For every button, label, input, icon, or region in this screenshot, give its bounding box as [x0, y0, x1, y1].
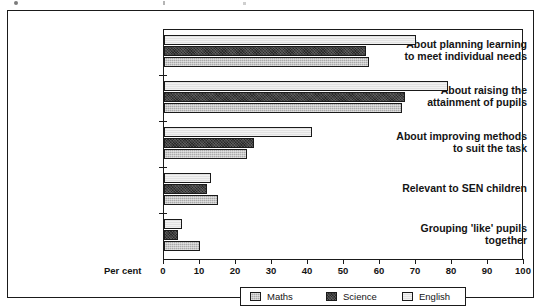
scan-artifact [243, 2, 246, 5]
y-axis-separator-tick [159, 167, 167, 168]
x-axis-tick [379, 259, 380, 264]
bar-science [164, 184, 207, 194]
bar-maths [164, 195, 218, 205]
bar-science [164, 92, 405, 102]
x-axis-tick-label: 80 [438, 265, 464, 276]
x-axis-tick [163, 259, 164, 264]
x-axis-tick [235, 259, 236, 264]
x-axis-tick [451, 259, 452, 264]
bar-maths [164, 103, 402, 113]
x-axis-tick [199, 259, 200, 264]
bar-maths [164, 149, 247, 159]
legend-item-science[interactable]: Science [326, 288, 402, 305]
x-axis-tick-label: 50 [330, 265, 356, 276]
bar-maths [164, 57, 369, 67]
x-axis-tick-label: 10 [186, 265, 212, 276]
chart-figure: About planning learningto meet individua… [7, 10, 534, 298]
bar-science [164, 138, 254, 148]
x-axis-tick [523, 259, 524, 264]
x-axis-tick [307, 259, 308, 264]
bar-english [164, 173, 211, 183]
legend-item-maths[interactable]: Maths [250, 288, 326, 305]
scan-artifact [14, 1, 18, 5]
x-axis-tick [487, 259, 488, 264]
scan-artifact [163, 1, 165, 5]
bar-english [164, 127, 312, 137]
bar-science [164, 230, 178, 240]
x-axis-tick-label: 100 [510, 265, 536, 276]
x-axis-tick-label: 70 [402, 265, 428, 276]
bar-english [164, 219, 182, 229]
x-axis-tick-label: 30 [258, 265, 284, 276]
x-axis-tick [343, 259, 344, 264]
bar-science [164, 46, 366, 56]
x-axis-tick-label: 90 [474, 265, 500, 276]
x-axis-tick [271, 259, 272, 264]
plot-area: 0102030405060708090100 [163, 29, 523, 259]
bar-english [164, 81, 448, 91]
x-axis-title: Per cent [104, 265, 142, 276]
bar-group [164, 29, 523, 75]
bar-group [164, 213, 523, 259]
legend-swatch-maths [250, 292, 261, 301]
x-axis-tick-label: 0 [150, 265, 176, 276]
y-axis-separator-tick [159, 121, 167, 122]
bar-english [164, 35, 416, 45]
legend-swatch-science [326, 292, 337, 301]
bar-maths [164, 241, 200, 251]
x-axis-tick [415, 259, 416, 264]
x-axis-tick-label: 60 [366, 265, 392, 276]
bar-group [164, 121, 523, 167]
chart-legend: MathsScienceEnglish [240, 287, 466, 306]
x-axis-tick-label: 20 [222, 265, 248, 276]
bar-group [164, 75, 523, 121]
legend-swatch-english [402, 292, 413, 301]
x-axis-tick-label: 40 [294, 265, 320, 276]
y-axis-separator-tick [159, 213, 167, 214]
bar-group [164, 167, 523, 213]
y-axis-separator-tick [159, 75, 167, 76]
legend-label: Maths [267, 291, 293, 302]
legend-label: English [419, 291, 450, 302]
legend-label: Science [343, 291, 377, 302]
legend-item-english[interactable]: English [402, 288, 462, 305]
